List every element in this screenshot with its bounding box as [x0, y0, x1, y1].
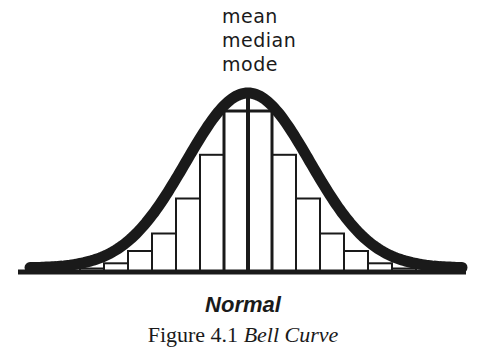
caption-prefix: Figure 4.1	[148, 322, 244, 347]
bell-curve-diagram	[0, 0, 486, 290]
histogram-bar	[272, 155, 296, 272]
histogram-bar	[152, 234, 176, 273]
caption-title: Bell Curve	[244, 322, 339, 347]
histogram-bar	[344, 251, 368, 272]
distribution-label: Normal	[0, 292, 486, 318]
histogram-bar	[176, 199, 200, 273]
histogram-bar	[320, 234, 344, 273]
histogram-bar	[200, 155, 224, 272]
figure-caption: Figure 4.1 Bell Curve	[0, 322, 486, 348]
histogram-bar	[224, 111, 248, 272]
histogram-bar	[128, 251, 152, 272]
histogram-bar	[296, 199, 320, 273]
histogram-bar	[248, 111, 272, 272]
